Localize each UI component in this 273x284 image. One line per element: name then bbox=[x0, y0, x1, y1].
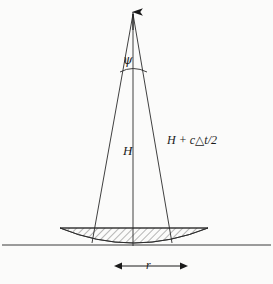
altitude-label: H bbox=[123, 144, 132, 157]
slant-range-label: H + c△t/2 bbox=[167, 134, 217, 146]
beam-right-edge bbox=[133, 14, 172, 243]
radar-beam-geometry-figure: ψ H H + c△t/2 r bbox=[0, 0, 273, 284]
beamwidth-angle-label: ψ bbox=[123, 54, 132, 66]
footprint-radius-label: r bbox=[146, 259, 151, 271]
diagram-canvas bbox=[0, 0, 273, 284]
beam-left-edge bbox=[92, 14, 133, 243]
